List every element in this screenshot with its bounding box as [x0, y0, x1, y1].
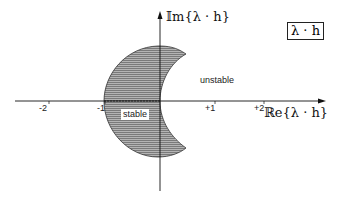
tick-label-pos1: +1 — [205, 103, 215, 113]
stable-region-shape — [104, 46, 186, 157]
stability-region-diagram: 𝕀m{λ · h} ℝe{λ · h} λ · h -2 -1 +1 +2 st… — [0, 0, 357, 205]
tick-label-pos2: +2 — [254, 103, 264, 113]
tick-label-neg2: -2 — [39, 103, 47, 113]
title-box: λ · h — [287, 22, 324, 40]
unstable-region-label: unstable — [200, 75, 234, 85]
tick-label-neg1: -1 — [97, 103, 105, 113]
imag-axis-label: 𝕀m{λ · h} — [166, 9, 230, 24]
imag-axis-arrow-icon — [158, 11, 163, 19]
real-axis-label: ℝe{λ · h} — [264, 105, 328, 120]
stable-region-label: stable — [121, 109, 149, 120]
real-axis-arrow-icon — [318, 99, 326, 104]
